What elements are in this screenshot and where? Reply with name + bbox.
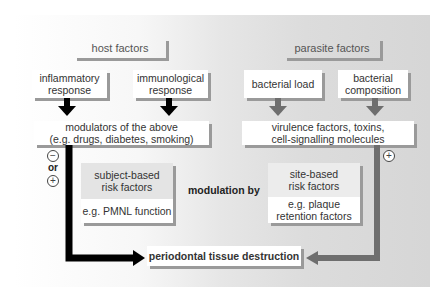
composition-down-arrow (366, 98, 384, 116)
parasite-to-destruction-arrow (306, 145, 377, 265)
bacterial-load-down-arrow (269, 98, 287, 116)
inflammatory-down-arrow (58, 98, 76, 116)
host-to-destruction-arrow (69, 145, 145, 266)
immunological-down-arrow (160, 98, 178, 116)
arrows-layer (0, 0, 445, 303)
